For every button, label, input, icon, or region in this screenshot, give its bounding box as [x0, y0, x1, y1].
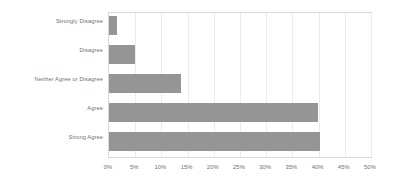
bar-neither-agree-or-disagree[interactable]: [109, 74, 181, 93]
x-axis-tick-label: 50%: [364, 163, 376, 171]
bar-agree[interactable]: [109, 103, 318, 122]
bar-strong-agree[interactable]: [109, 132, 320, 151]
bar-disagree[interactable]: [109, 45, 135, 64]
x-axis-tick-label: 25%: [233, 163, 245, 171]
bars-layer: [109, 13, 371, 157]
x-axis-tick-label: 40%: [312, 163, 324, 171]
bar-slot: [109, 132, 320, 151]
x-axis-tick-label: 20%: [207, 163, 219, 171]
x-axis-tick-label: 5%: [130, 163, 139, 171]
gridline: [371, 13, 372, 157]
x-axis-tick-label: 10%: [154, 163, 166, 171]
y-axis-tick-label: Strong Agree: [0, 134, 103, 141]
x-axis-tick-labels: 0%5%10%15%20%25%30%35%40%45%50%: [108, 163, 372, 175]
bar-slot: [109, 103, 318, 122]
x-axis-tick-label: 30%: [259, 163, 271, 171]
y-axis-tick-label: Disagree: [0, 47, 103, 54]
bar-slot: [109, 16, 117, 35]
bar-chart: Strongly Disagree Disagree Neither Agree…: [0, 0, 396, 187]
y-axis-tick-label: Neither Agree or Disagree: [0, 76, 103, 83]
x-axis-tick-label: 35%: [285, 163, 297, 171]
plot-area: [108, 12, 372, 158]
x-axis-tick-label: 45%: [338, 163, 350, 171]
x-axis-tick-label: 15%: [181, 163, 193, 171]
bar-slot: [109, 45, 135, 64]
bar-strongly-disagree[interactable]: [109, 16, 117, 35]
bar-slot: [109, 74, 181, 93]
x-axis-tick-label: 0%: [104, 163, 113, 171]
y-axis-tick-label: Strongly Disagree: [0, 18, 103, 25]
y-axis-tick-label: Agree: [0, 105, 103, 112]
y-axis-category-labels: Strongly Disagree Disagree Neither Agree…: [0, 12, 103, 158]
